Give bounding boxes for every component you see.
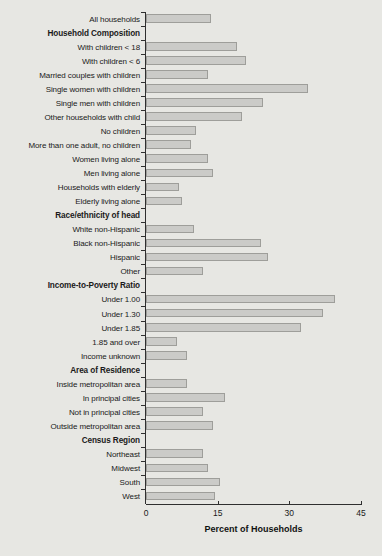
bar (146, 140, 191, 149)
x-tick-label: 0 (134, 508, 158, 518)
category-label: Other households with child (0, 113, 145, 122)
chart-row: Outside metropolitan area (0, 419, 361, 433)
y-axis-tick (141, 405, 145, 406)
bar-track (145, 265, 361, 279)
chart-row: Elderly living alone (0, 195, 361, 209)
y-axis-tick (141, 377, 145, 378)
category-label: Men living alone (0, 169, 145, 178)
bar-track (145, 138, 361, 152)
bar-track (145, 447, 361, 461)
category-label: Single women with children (0, 85, 145, 94)
bar (146, 56, 246, 65)
bar-track (145, 377, 361, 391)
y-axis-tick (141, 391, 145, 392)
category-label: South (0, 478, 145, 487)
bar-track (145, 307, 361, 321)
chart-row: Households with elderly (0, 181, 361, 195)
category-label: Households with elderly (0, 183, 145, 192)
y-axis-tick (141, 306, 145, 307)
x-axis-title: Percent of Households (146, 524, 361, 534)
y-axis-tick (141, 292, 145, 293)
bar (146, 449, 203, 458)
section-header: Income-to-Poverty Ratio (0, 281, 145, 290)
bar-track (145, 152, 361, 166)
bar-track (145, 167, 361, 181)
bar (146, 478, 220, 487)
bar (146, 239, 261, 248)
bar (146, 253, 268, 262)
chart-row: With children < 6 (0, 54, 361, 68)
bar-track (145, 54, 361, 68)
chart-row: Other households with child (0, 110, 361, 124)
y-axis-tick (141, 180, 145, 181)
chart-row: Inside metropolitan area (0, 377, 361, 391)
category-label: West (0, 492, 145, 501)
section-header: Race/ethnicity of head (0, 211, 145, 220)
y-axis-tick (141, 166, 145, 167)
bar-track (145, 462, 361, 476)
bar (146, 323, 301, 332)
bar-track (145, 209, 361, 223)
section-header: Area of Residence (0, 366, 145, 375)
y-axis-tick (141, 363, 145, 364)
category-label: Under 1.30 (0, 310, 145, 319)
bar (146, 42, 237, 51)
chart-row: Married couples with children (0, 68, 361, 82)
y-axis-tick (141, 152, 145, 153)
bar-track (145, 110, 361, 124)
bar (146, 464, 208, 473)
bar (146, 295, 335, 304)
y-axis-tick (141, 461, 145, 462)
bar (146, 492, 215, 501)
chart-row: All households (0, 12, 361, 26)
x-axis-tick (361, 501, 362, 505)
section-row: Income-to-Poverty Ratio (0, 279, 361, 293)
y-axis-tick (141, 489, 145, 490)
y-axis-tick (141, 12, 145, 13)
category-label: In principal cities (0, 394, 145, 403)
bar-track (145, 279, 361, 293)
bar (146, 154, 208, 163)
x-tick-labels: 0153045 (146, 508, 361, 520)
bar-track (145, 419, 361, 433)
category-label: Married couples with children (0, 71, 145, 80)
chart-row: More than one adult, no children (0, 138, 361, 152)
chart-row: Under 1.00 (0, 293, 361, 307)
y-axis-tick (141, 335, 145, 336)
bar-track (145, 293, 361, 307)
chart-row: No children (0, 124, 361, 138)
y-axis-tick (141, 110, 145, 111)
y-axis-tick (141, 68, 145, 69)
chart-row: Not in principal cities (0, 405, 361, 419)
category-label: Single men with children (0, 99, 145, 108)
bar (146, 14, 211, 23)
bar-chart: All householdsHousehold CompositionWith … (0, 0, 382, 556)
y-axis-tick (141, 321, 145, 322)
y-axis-tick (141, 138, 145, 139)
y-axis-tick (141, 475, 145, 476)
bar (146, 98, 263, 107)
chart-row: In principal cities (0, 391, 361, 405)
category-label: 1.85 and over (0, 338, 145, 347)
chart-rows: All householdsHousehold CompositionWith … (0, 12, 361, 504)
bar-track (145, 40, 361, 54)
category-label: With children < 6 (0, 57, 145, 66)
bar-track (145, 223, 361, 237)
y-axis-tick (141, 96, 145, 97)
x-tick-label: 45 (349, 508, 373, 518)
bar (146, 197, 182, 206)
bar (146, 169, 213, 178)
chart-row: Black non-Hispanic (0, 237, 361, 251)
chart-row: White non-Hispanic (0, 223, 361, 237)
category-label: More than one adult, no children (0, 141, 145, 150)
y-axis-tick (141, 54, 145, 55)
y-axis-tick (141, 236, 145, 237)
bar-track (145, 490, 361, 504)
chart-row: Income unknown (0, 349, 361, 363)
y-axis-tick (141, 349, 145, 350)
bar-track (145, 349, 361, 363)
x-axis-tick (218, 501, 219, 505)
category-label: Hispanic (0, 253, 145, 262)
chart-row: Men living alone (0, 167, 361, 181)
section-row: Area of Residence (0, 363, 361, 377)
